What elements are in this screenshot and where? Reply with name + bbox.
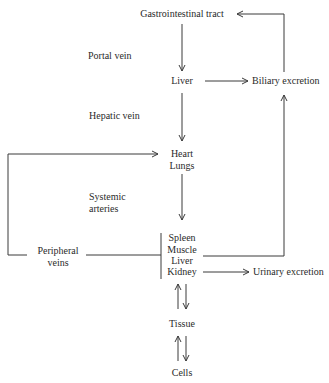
arrow-peripheral-veins-loop [8,154,158,255]
arrow-organs-to-biliary [203,95,284,256]
node-lungs: Lungs [170,160,195,172]
arrow-biliary-to-gi [237,14,284,72]
diagram-connectors [0,0,329,383]
node-gi-tract: Gastrointestinal tract [140,8,224,20]
label-systemic-arteries-2: arteries [89,203,118,215]
label-peripheral-veins-1: Peripheral [37,245,78,257]
label-systemic-arteries-1: Systemic [89,191,126,203]
node-spleen: Spleen [168,232,195,244]
node-heart: Heart [171,148,193,160]
node-kidney: Kidney [167,266,196,278]
label-peripheral-veins-2: veins [47,257,68,269]
node-tissue: Tissue [169,318,195,330]
label-hepatic-vein: Hepatic vein [89,110,140,122]
label-portal-vein: Portal vein [88,50,132,62]
node-liver: Liver [171,75,193,87]
node-cells: Cells [172,367,193,379]
node-biliary-excretion: Biliary excretion [252,75,319,87]
node-urinary-excretion: Urinary excretion [253,266,324,278]
